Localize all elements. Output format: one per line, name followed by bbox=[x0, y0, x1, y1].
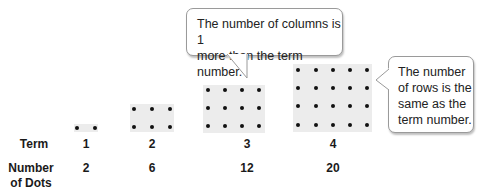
term-value-1: 1 bbox=[71, 137, 101, 151]
dot bbox=[240, 88, 244, 92]
dot bbox=[240, 106, 244, 110]
dot bbox=[314, 123, 318, 127]
callout-columns-pointer bbox=[226, 53, 256, 81]
dot bbox=[314, 104, 318, 108]
dot-pattern-term-3 bbox=[203, 85, 265, 133]
dot bbox=[150, 125, 154, 129]
dot bbox=[296, 123, 300, 127]
dot bbox=[348, 68, 352, 72]
dot bbox=[223, 124, 227, 128]
callout-rows-line1: The number bbox=[398, 64, 473, 80]
dot bbox=[132, 125, 136, 129]
callout-rows-line3: same as the bbox=[398, 96, 473, 112]
dot bbox=[296, 104, 300, 108]
dot bbox=[257, 124, 261, 128]
dot bbox=[331, 123, 335, 127]
dots-value-1: 2 bbox=[71, 161, 101, 175]
dots-value-3: 12 bbox=[232, 161, 262, 175]
term-row-label: Term bbox=[14, 137, 54, 152]
dot bbox=[348, 86, 352, 90]
dot bbox=[296, 86, 300, 90]
number-of-dots-label-line1: Number bbox=[6, 161, 56, 176]
callout-columns: The number of columns is 1 more than the… bbox=[186, 8, 343, 56]
dot bbox=[75, 126, 79, 130]
callout-rows-line2: of rows is the bbox=[398, 80, 473, 96]
number-of-dots-label-line2: of Dots bbox=[6, 176, 56, 191]
dot bbox=[206, 106, 210, 110]
dot bbox=[206, 124, 210, 128]
dot bbox=[168, 107, 172, 111]
callout-rows: The number of rows is the same as the te… bbox=[388, 56, 474, 133]
dot-pattern-term-1 bbox=[74, 124, 98, 132]
dot bbox=[257, 88, 261, 92]
dot bbox=[223, 106, 227, 110]
dot bbox=[365, 123, 369, 127]
dot bbox=[365, 104, 369, 108]
term-value-2: 2 bbox=[137, 137, 167, 151]
dot bbox=[348, 104, 352, 108]
dot bbox=[314, 86, 318, 90]
term-value-4: 4 bbox=[318, 137, 348, 151]
dot bbox=[93, 126, 97, 130]
dots-value-2: 6 bbox=[137, 161, 167, 175]
dot bbox=[257, 106, 261, 110]
callout-rows-line4: term number. bbox=[398, 112, 473, 128]
dot bbox=[331, 86, 335, 90]
callout-columns-line1: The number of columns is 1 bbox=[197, 16, 342, 48]
dot bbox=[206, 88, 210, 92]
dots-value-4: 20 bbox=[318, 161, 348, 175]
dot bbox=[240, 124, 244, 128]
dot bbox=[348, 123, 352, 127]
dot bbox=[365, 68, 369, 72]
dot bbox=[331, 104, 335, 108]
dot-pattern-term-2 bbox=[130, 104, 174, 132]
dot bbox=[365, 86, 369, 90]
dot bbox=[223, 88, 227, 92]
term-value-3: 3 bbox=[232, 137, 262, 151]
dot bbox=[150, 107, 154, 111]
dot bbox=[168, 125, 172, 129]
dot bbox=[132, 107, 136, 111]
callout-columns-line2: more than the term number. bbox=[197, 48, 342, 80]
callout-rows-pointer bbox=[375, 68, 391, 94]
